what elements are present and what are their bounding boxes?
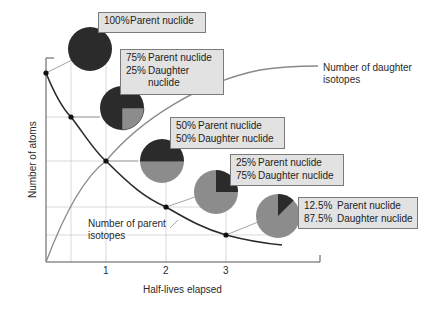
annotation-75-parent: 75%Parent nuclide 25%Daughter nuclide	[120, 49, 224, 95]
pct-label: 100%	[104, 15, 130, 28]
label-line: Number of parent	[88, 218, 166, 230]
text-label: Parent nuclide	[130, 15, 194, 28]
pct-label: 25%	[126, 65, 148, 78]
text-label: Daughter nuclide	[198, 133, 274, 146]
pct-label: 12.5%	[304, 200, 337, 213]
parent-curve-label: Number of parent isotopes	[88, 218, 166, 242]
daughter-curve-label: Number of daughter isotopes	[323, 62, 412, 86]
text-label: Parent nuclide	[337, 200, 401, 213]
text-label: Daughter nuclide	[337, 213, 413, 226]
pct-label: 87.5%	[304, 213, 337, 226]
half-life-chart	[0, 0, 444, 310]
annotation-12-5-parent: 12.5%Parent nuclide 87.5%Daughter nuclid…	[298, 197, 418, 229]
text-label: Daughter	[148, 65, 189, 78]
label-line: Number of daughter	[323, 62, 412, 74]
label-line: isotopes	[88, 230, 166, 242]
label-line: isotopes	[323, 74, 412, 86]
text-label: nuclide	[148, 77, 180, 90]
text-label: Parent nuclide	[198, 120, 262, 133]
text-label: Parent nuclide	[148, 52, 212, 65]
pie-100-parent	[68, 27, 112, 71]
x-tick-2: 2	[163, 265, 169, 277]
pct-label: 75%	[236, 170, 258, 183]
x-tick-3: 3	[223, 265, 229, 277]
pct-label: 50%	[176, 120, 198, 133]
annotation-100-parent: 100%Parent nuclide	[98, 12, 206, 33]
text-label: Parent nuclide	[258, 157, 322, 170]
annotation-50-parent: 50%Parent nuclide 50%Daughter nuclide	[170, 117, 285, 149]
x-tick-1: 1	[103, 265, 109, 277]
pct-label: 50%	[176, 133, 198, 146]
pct-label: 25%	[236, 157, 258, 170]
text-label: Daughter nuclide	[258, 170, 334, 183]
annotation-25-parent: 25%Parent nuclide 75%Daughter nuclide	[230, 154, 344, 186]
y-axis-title: Number of atoms	[27, 121, 38, 198]
x-axis-title: Half-lives elapsed	[143, 284, 222, 296]
pct-label: 75%	[126, 52, 148, 65]
pie-12-5-parent	[256, 194, 300, 238]
